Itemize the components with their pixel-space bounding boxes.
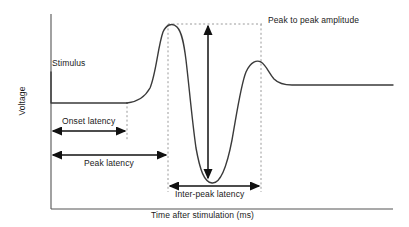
inter-peak-latency-label: Inter-peak latency [175,189,244,199]
axis-lines [51,14,393,209]
stimulus-artifact-trace [51,72,127,103]
x-axis-label: Time after stimulation (ms) [151,210,254,220]
onset-latency-label: Onset latency [62,116,115,126]
y-axis-label: Voltage [17,71,27,131]
peak-latency-label: Peak latency [84,158,134,168]
waveform-figure: Stimulus Onset latency Peak latency Inte… [0,0,409,227]
stimulus-label: Stimulus [52,58,85,68]
action-potential-trace [127,25,393,184]
guide-lines [127,24,262,192]
peak-to-peak-amplitude-label: Peak to peak amplitude [268,15,359,25]
